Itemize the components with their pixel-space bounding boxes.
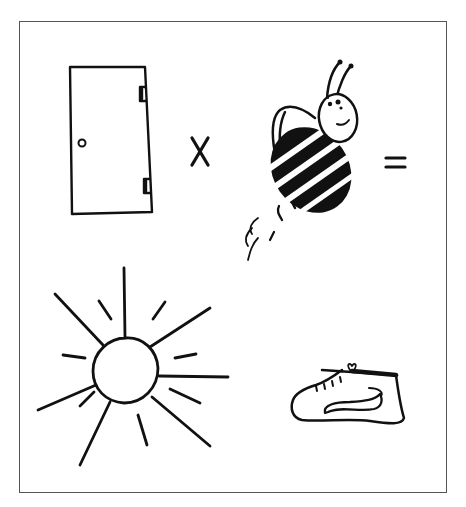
bee-icon — [246, 60, 370, 261]
door-icon — [70, 67, 152, 214]
equals-sign — [386, 158, 405, 167]
multiply-sign — [192, 138, 208, 165]
sun-icon — [38, 268, 228, 465]
sneaker-icon — [292, 364, 404, 423]
